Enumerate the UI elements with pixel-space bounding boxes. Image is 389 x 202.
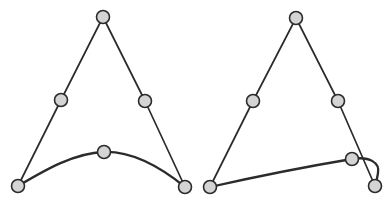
node-left-mid-left[interactable] [55,94,68,107]
node-right-mid-right[interactable] [332,95,345,108]
node-left-apex[interactable] [97,11,110,24]
node-right-mid-left[interactable] [247,95,260,108]
node-left-curve-mid[interactable] [98,146,111,159]
node-right-curve-mid[interactable] [346,153,359,166]
figure-canvas [0,0,389,202]
node-left-base-left[interactable] [12,180,25,193]
node-right-base-right[interactable] [369,180,382,193]
node-left-base-right[interactable] [179,181,192,194]
node-left-mid-right[interactable] [139,95,152,108]
node-right-apex[interactable] [290,12,303,25]
node-right-base-left[interactable] [204,181,217,194]
